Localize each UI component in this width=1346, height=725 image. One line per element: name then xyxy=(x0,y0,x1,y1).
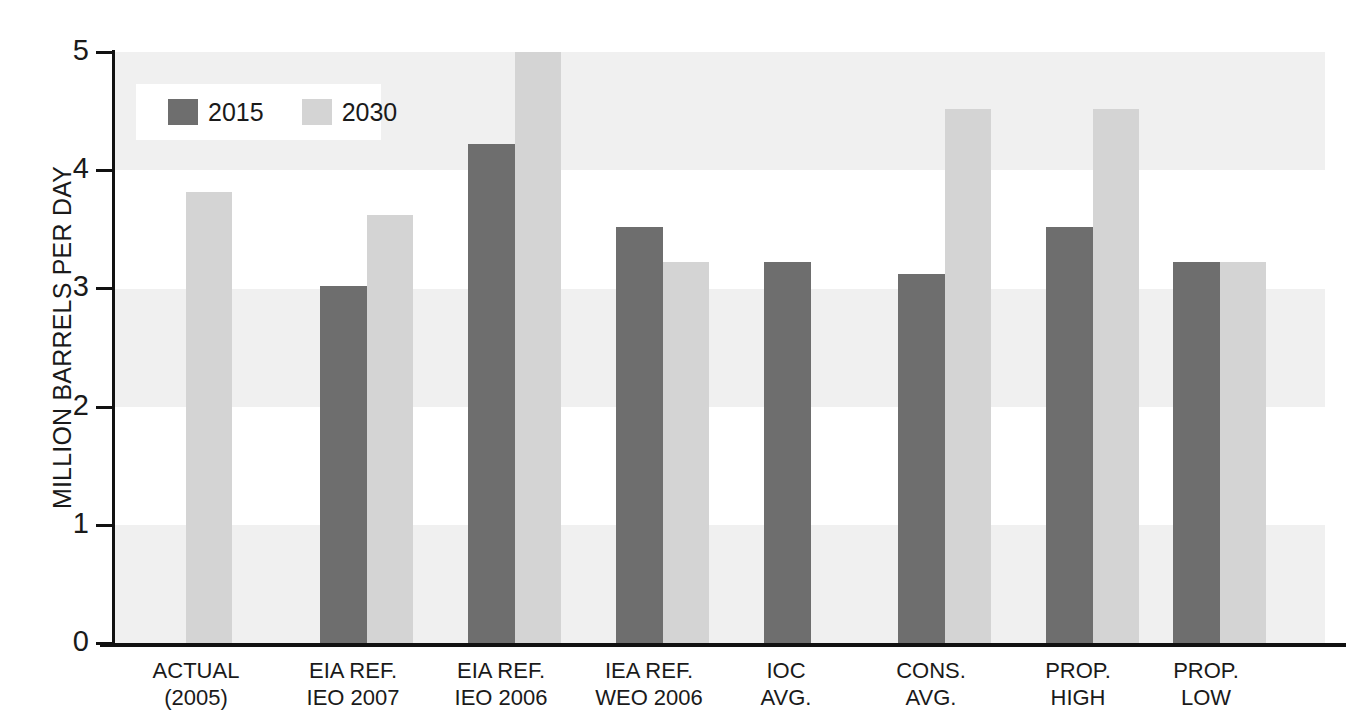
bar-prop-low-2030 xyxy=(1220,262,1266,643)
bar-eia-ieo2007-2030 xyxy=(367,215,413,643)
bar-prop-high-2015 xyxy=(1046,227,1093,643)
y-tick-0 xyxy=(96,642,113,645)
x-label-iea-weo2006: IEA REF. WEO 2006 xyxy=(571,658,727,712)
bar-actual-2030 xyxy=(186,192,232,643)
legend-swatch-2015-icon xyxy=(168,99,198,125)
bar-iea-weo2006-2015 xyxy=(616,227,663,643)
bar-prop-high-2030 xyxy=(1093,109,1139,643)
y-tick-label-0: 0 xyxy=(73,627,89,656)
legend-item-2015: 2015 xyxy=(168,98,264,127)
legend-label-2015: 2015 xyxy=(208,98,264,127)
legend: 2015 2030 xyxy=(136,84,381,140)
bar-iea-weo2006-2030 xyxy=(663,262,709,643)
legend-item-2030: 2030 xyxy=(302,98,398,127)
x-label-eia-ieo2007: EIA REF. IEO 2007 xyxy=(275,658,431,712)
y-tick-4 xyxy=(96,169,113,172)
legend-label-2030: 2030 xyxy=(342,98,398,127)
x-label-actual: ACTUAL (2005) xyxy=(118,658,274,712)
y-tick-label-3: 3 xyxy=(73,272,89,301)
bar-prop-low-2015 xyxy=(1173,262,1220,643)
bar-ioc-avg-2015 xyxy=(764,262,811,643)
y-tick-label-1: 1 xyxy=(73,509,89,538)
y-axis-line xyxy=(112,50,115,645)
bar-eia-ieo2006-2015 xyxy=(468,144,515,643)
y-tick-1 xyxy=(96,524,113,527)
y-tick-5 xyxy=(96,51,113,54)
x-label-ioc-avg: IOC AVG. xyxy=(708,658,864,712)
bar-cons-avg-2030 xyxy=(945,109,991,643)
x-axis-line xyxy=(100,643,1346,647)
grid-band xyxy=(114,525,1325,643)
y-tick-label-5: 5 xyxy=(73,36,89,65)
x-label-cons-avg: CONS. AVG. xyxy=(853,658,1009,712)
bar-eia-ieo2006-2030 xyxy=(515,52,561,643)
y-tick-2 xyxy=(96,406,113,409)
y-tick-label-4: 4 xyxy=(73,154,89,183)
legend-swatch-2030-icon xyxy=(302,99,332,125)
x-label-eia-ieo2006: EIA REF. IEO 2006 xyxy=(423,658,579,712)
plot-area xyxy=(114,52,1325,643)
bar-eia-ieo2007-2015 xyxy=(320,286,367,643)
y-tick-label-2: 2 xyxy=(73,391,89,420)
x-label-prop-low: PROP. LOW xyxy=(1128,658,1284,712)
bar-cons-avg-2015 xyxy=(898,274,945,643)
y-axis-title: MILLION BARRELS PER DAY xyxy=(48,28,77,648)
bar-chart: MILLION BARRELS PER DAY xyxy=(0,0,1346,725)
y-tick-3 xyxy=(96,287,113,290)
grid-band xyxy=(114,289,1325,407)
